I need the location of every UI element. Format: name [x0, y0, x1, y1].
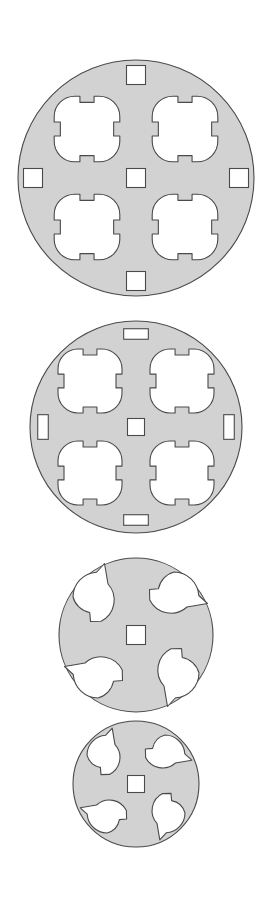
figure-4-disk — [0, 714, 272, 859]
quatrefoil-cutout — [54, 96, 120, 162]
quatrefoil-cutout — [54, 194, 120, 260]
quatrefoil-cutout — [150, 349, 214, 413]
figure-4-body — [73, 721, 199, 847]
figure-1-disk — [0, 48, 272, 310]
figure-sheet — [0, 0, 272, 899]
center-square-slot — [128, 419, 145, 436]
right-slot — [230, 169, 249, 188]
figure-3-disk — [0, 550, 272, 722]
top-slot — [124, 329, 149, 340]
left-slot — [38, 415, 49, 440]
quatrefoil-cutout — [58, 349, 122, 413]
quatrefoil-cutout — [150, 441, 214, 505]
right-slot — [224, 415, 235, 440]
figure-1-body — [18, 60, 254, 296]
quatrefoil-cutout — [152, 96, 218, 162]
figure-2-disk — [0, 313, 272, 543]
top-slot — [127, 66, 146, 85]
figure-3-body — [59, 558, 213, 712]
quatrefoil-cutout — [152, 194, 218, 260]
center-square-slot — [128, 776, 145, 793]
quatrefoil-cutout — [58, 441, 122, 505]
left-slot — [24, 169, 43, 188]
bottom-slot — [127, 272, 146, 291]
bottom-slot — [124, 515, 149, 526]
figure-2-body — [30, 321, 242, 533]
center-square-slot — [127, 169, 146, 188]
center-square-slot — [127, 626, 146, 645]
